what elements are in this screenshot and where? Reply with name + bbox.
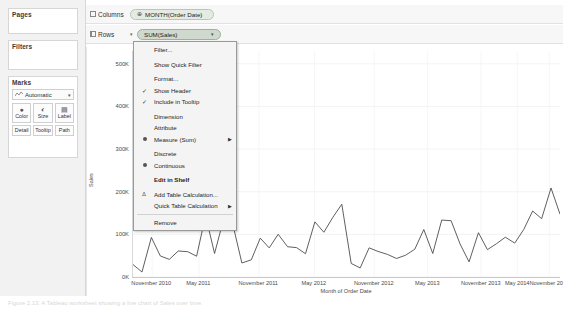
menu-item-show-header-label: Show Header <box>154 87 191 94</box>
menu-item-edit-in-shelf-label: Edit in Shelf <box>154 176 189 183</box>
check-icon: ✓ <box>142 98 147 105</box>
menu-item-filter[interactable]: Filter... <box>134 44 236 56</box>
pill-sum-sales[interactable]: SUM(Sales) ▾ <box>137 29 221 40</box>
left-panel: Pages Filters Marks Automatic ▾ ● Color … <box>0 0 86 296</box>
menu-item-edit-in-shelf[interactable]: Edit in Shelf <box>134 174 236 186</box>
marks-button-label-label: Label <box>58 114 71 120</box>
marks-type-label: Automatic <box>23 92 68 98</box>
pages-card-title: Pages <box>9 9 77 19</box>
pages-card[interactable]: Pages <box>8 8 78 34</box>
menu-item-attribute[interactable]: Attribute <box>134 122 236 134</box>
menu-item-filter-label: Filter... <box>154 46 172 53</box>
check-icon: ✓ <box>142 87 147 94</box>
menu-item-include-in-tooltip[interactable]: ✓Include in Tooltip <box>134 96 236 108</box>
color-palette-icon: ● <box>20 106 24 113</box>
x-axis-tick-label: November 2011 <box>239 280 278 286</box>
menu-item-continuous[interactable]: Continuous <box>134 160 236 172</box>
line-mark-icon <box>15 92 23 97</box>
menu-item-measure-sum[interactable]: Measure (Sum)▶ <box>134 134 236 146</box>
pill-chevron-down-icon[interactable]: ▾ <box>211 31 214 37</box>
marks-card-title: Marks <box>9 77 77 87</box>
chevron-right-icon: ▶ <box>228 203 232 209</box>
table-calculation-icon: Δ <box>142 191 146 197</box>
shelf-area: Columns ⊕ MONTH(Order Date) Rows ▾ SUM(S… <box>86 0 563 47</box>
marks-button-size-label: Size <box>38 114 49 120</box>
x-axis-tick-label: November 2012 <box>354 280 394 286</box>
rows-shelf-label: Rows <box>98 31 114 38</box>
marks-card: Marks Automatic ▾ ● Color ◐ Size ▤ <box>8 76 78 158</box>
menu-item-add-table-calculation[interactable]: ΔAdd Table Calculation... <box>134 189 236 201</box>
x-axis-tick-label: May 2014 <box>505 280 530 286</box>
marks-button-detail[interactable]: Detail <box>12 125 31 136</box>
columns-shelf-label: Columns <box>98 11 124 18</box>
marks-button-path-label: Path <box>59 128 70 134</box>
columns-icon <box>90 11 96 17</box>
menu-item-format[interactable]: Format... <box>134 73 236 85</box>
menu-item-discrete[interactable]: Discrete <box>134 148 236 160</box>
marks-buttons-grid: ● Color ◐ Size ▤ Label Detail Tooltip <box>9 100 77 136</box>
menu-item-dimension[interactable]: Dimension <box>134 111 236 123</box>
radio-selected-icon <box>143 137 147 141</box>
marks-button-tooltip[interactable]: Tooltip <box>33 125 52 136</box>
rows-shelf-label-group: Rows <box>90 31 130 38</box>
menu-item-show-header[interactable]: ✓Show Header <box>134 85 236 97</box>
menu-item-attribute-label: Attribute <box>154 124 177 131</box>
pill-sum-sales-label: SUM(Sales) <box>144 31 177 38</box>
x-axis-tick-label: May 2012 <box>302 280 327 286</box>
x-axis-tick-label: May 2013 <box>415 280 440 286</box>
filters-card[interactable]: Filters <box>8 40 78 70</box>
menu-item-add-table-calculation-label: Add Table Calculation... <box>154 191 218 198</box>
chevron-right-icon: ▶ <box>228 136 232 142</box>
field-context-menu[interactable]: Filter...Show Quick FilterFormat...✓Show… <box>133 41 237 231</box>
plus-icon: ⊕ <box>137 11 142 17</box>
y-axis-tick-label: 500K <box>92 61 132 67</box>
x-axis-tick-label: May 2011 <box>186 280 210 286</box>
tableau-worksheet-window: Pages Filters Marks Automatic ▾ ● Color … <box>0 0 563 319</box>
menu-item-continuous-label: Continuous <box>154 162 185 169</box>
marks-type-dropdown[interactable]: Automatic ▾ <box>12 89 74 100</box>
menu-item-format-label: Format... <box>154 75 178 82</box>
rows-shelf-chevron-down-icon[interactable]: ▾ <box>130 31 133 37</box>
y-axis-tick-label: 0K <box>92 274 132 280</box>
marks-button-size[interactable]: ◐ Size <box>33 103 52 123</box>
pill-month-order-date-label: MONTH(Order Date) <box>145 11 202 18</box>
y-axis-ticks: 0K100K200K300K400K500K <box>87 47 132 277</box>
y-axis-tick-label: 300K <box>92 146 132 152</box>
menu-sep-1 <box>137 214 233 215</box>
label-icon: ▤ <box>61 106 68 113</box>
menu-item-show-quick-filter[interactable]: Show Quick Filter <box>134 59 236 71</box>
marks-button-tooltip-label: Tooltip <box>35 128 51 134</box>
menu-item-remove[interactable]: Remove <box>134 217 236 229</box>
filters-card-title: Filters <box>9 41 77 51</box>
size-icon: ◐ <box>41 106 45 113</box>
marks-button-path[interactable]: Path <box>55 125 74 136</box>
menu-item-quick-table-calculation-label: Quick Table Calculation <box>154 202 218 209</box>
marks-button-label[interactable]: ▤ Label <box>55 103 74 123</box>
menu-item-remove-label: Remove <box>154 219 177 226</box>
menu-item-include-in-tooltip-label: Include in Tooltip <box>154 98 199 105</box>
x-axis-tick-label: November 2013 <box>461 280 501 286</box>
columns-shelf-label-group: Columns <box>90 11 130 18</box>
x-axis-tick-label: November 2014 <box>529 280 563 286</box>
menu-item-measure-sum-label: Measure (Sum) <box>154 136 196 143</box>
marks-button-color-label: Color <box>15 114 28 120</box>
figure-caption: Figure 2.13: A Tableau worksheet showing… <box>8 300 548 306</box>
marks-button-color[interactable]: ● Color <box>12 103 31 123</box>
menu-item-quick-table-calculation[interactable]: Quick Table Calculation▶ <box>134 200 236 212</box>
menu-item-show-quick-filter-label: Show Quick Filter <box>154 61 202 68</box>
x-axis-tick-label: November 2010 <box>131 280 171 286</box>
marks-button-detail-label: Detail <box>15 128 29 134</box>
menu-item-discrete-label: Discrete <box>154 150 176 157</box>
x-axis-title: Month of Order Date <box>132 288 560 294</box>
y-axis-tick-label: 400K <box>92 103 132 109</box>
chevron-down-icon: ▾ <box>68 92 71 98</box>
rows-icon <box>90 31 96 37</box>
pill-month-order-date[interactable]: ⊕ MONTH(Order Date) <box>130 9 214 20</box>
y-axis-tick-label: 100K <box>92 231 132 237</box>
y-axis-tick-label: 200K <box>92 189 132 195</box>
columns-shelf[interactable]: Columns ⊕ MONTH(Order Date) <box>86 5 563 24</box>
menu-item-dimension-label: Dimension <box>154 113 183 120</box>
radio-selected-icon <box>143 163 147 167</box>
